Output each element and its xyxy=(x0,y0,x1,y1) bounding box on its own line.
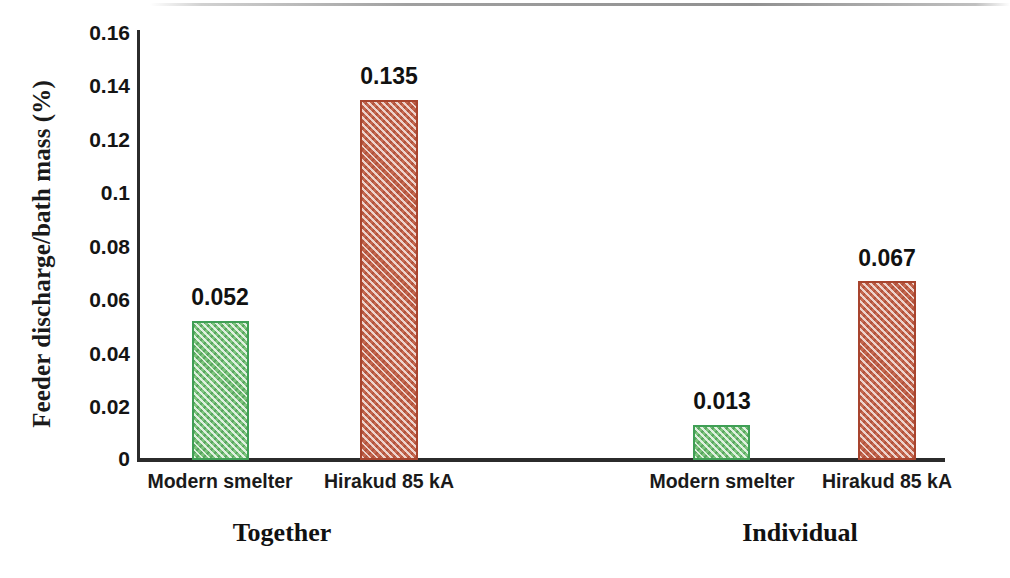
y-tick-label: 0.08 xyxy=(38,235,130,259)
y-tick-label: 0.12 xyxy=(38,128,130,152)
y-axis-tick-labels: 0.16 0.14 0.12 0.1 0.08 0.06 0.04 0.02 0 xyxy=(38,0,130,578)
group-label-individual: Individual xyxy=(742,518,858,548)
bar-value-label: 0.052 xyxy=(191,284,249,311)
category-label-modern-smelter-together: Modern smelter xyxy=(147,470,292,493)
category-label-hirakud-together: Hirakud 85 kA xyxy=(324,470,454,493)
bar-individual-hirakud-85-ka[interactable] xyxy=(858,281,916,460)
bar-together-modern-smelter[interactable] xyxy=(192,321,249,460)
bar-together-hirakud-85-ka[interactable] xyxy=(360,100,418,460)
plot-area xyxy=(137,30,945,460)
category-label-hirakud-individual: Hirakud 85 kA xyxy=(822,470,952,493)
bar-individual-modern-smelter[interactable] xyxy=(693,425,750,460)
bar-chart-figure: Feeder discharge/bath mass (%) 0.16 0.14… xyxy=(0,0,1010,578)
group-label-together: Together xyxy=(233,518,332,548)
y-tick-label: 0.04 xyxy=(38,342,130,366)
y-tick-label: 0 xyxy=(38,447,130,471)
scan-artifact-line xyxy=(150,3,1010,6)
bar-value-label: 0.013 xyxy=(693,388,751,415)
y-tick-label: 0.14 xyxy=(38,74,130,98)
bar-value-label: 0.067 xyxy=(858,245,916,272)
y-tick-label: 0.16 xyxy=(38,21,130,45)
bar-value-label: 0.135 xyxy=(360,63,418,90)
y-tick-label: 0.1 xyxy=(38,181,130,205)
y-tick-label: 0.02 xyxy=(38,395,130,419)
y-tick-label: 0.06 xyxy=(38,288,130,312)
category-label-modern-smelter-individual: Modern smelter xyxy=(649,470,794,493)
